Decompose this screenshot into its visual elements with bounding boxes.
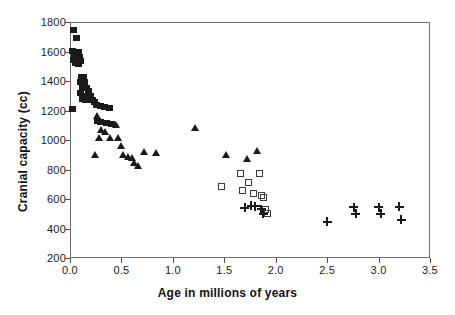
- x-tick-mark: [224, 258, 225, 263]
- data-point-open-square: [245, 179, 252, 186]
- data-point-filled-triangle: [91, 151, 99, 158]
- plot-area: [70, 22, 430, 258]
- x-axis-label: Age in millions of years: [0, 286, 455, 300]
- y-tick-label: 600: [4, 193, 66, 205]
- y-tick-mark: [65, 199, 70, 200]
- data-point-plus: [395, 202, 404, 211]
- data-point-filled-square: [70, 27, 77, 33]
- y-tick-mark: [65, 170, 70, 171]
- x-tick-mark: [276, 258, 277, 263]
- data-point-filled-triangle: [222, 151, 230, 158]
- data-point-plus: [323, 217, 332, 226]
- scatter-chart: 20040060080010001200140016001800 0.00.51…: [0, 0, 455, 315]
- x-tick-label: 1.0: [165, 264, 181, 276]
- y-tick-label: 1600: [4, 46, 66, 58]
- data-point-plus: [376, 209, 385, 218]
- x-tick-label: 3.5: [422, 264, 438, 276]
- x-tick-mark: [173, 258, 174, 263]
- data-point-filled-triangle: [140, 148, 148, 155]
- data-point-filled-triangle: [253, 147, 261, 154]
- x-tick-mark: [430, 258, 431, 263]
- data-point-filled-triangle: [93, 112, 101, 119]
- data-point-open-square: [260, 194, 267, 201]
- data-point-plus: [351, 209, 360, 218]
- data-point-open-square: [237, 170, 244, 177]
- y-tick-mark: [65, 140, 70, 141]
- data-point-plus: [397, 215, 406, 224]
- x-tick-mark: [379, 258, 380, 263]
- y-tick-label: 1000: [4, 134, 66, 146]
- y-axis-label: Cranial capacity (cc): [16, 91, 30, 212]
- data-point-open-square: [239, 187, 246, 194]
- data-point-open-square: [250, 190, 257, 197]
- data-point-filled-triangle: [114, 134, 122, 141]
- data-point-filled-triangle: [243, 155, 251, 162]
- y-tick-mark: [65, 81, 70, 82]
- y-tick-label: 1800: [4, 16, 66, 28]
- data-point-filled-square: [106, 105, 113, 111]
- x-tick-mark: [327, 258, 328, 263]
- x-tick-label: 1.5: [216, 264, 232, 276]
- x-tick-label: 0.5: [113, 264, 129, 276]
- x-tick-label: 2.5: [319, 264, 335, 276]
- data-point-filled-triangle: [191, 124, 199, 131]
- y-tick-mark: [65, 22, 70, 23]
- x-tick-mark: [121, 258, 122, 263]
- data-point-filled-triangle: [134, 162, 142, 169]
- y-tick-mark: [65, 229, 70, 230]
- data-point-filled-triangle: [117, 142, 125, 149]
- y-tick-label: 1200: [4, 105, 66, 117]
- y-tick-label: 1400: [4, 75, 66, 87]
- x-tick-mark: [70, 258, 71, 263]
- data-point-filled-triangle: [95, 134, 103, 141]
- data-point-open-square: [218, 183, 225, 190]
- y-tick-label: 800: [4, 164, 66, 176]
- y-tick-label: 200: [4, 252, 66, 264]
- y-tick-label: 400: [4, 223, 66, 235]
- x-tick-label: 3.0: [371, 264, 387, 276]
- x-tick-label: 0.0: [62, 264, 78, 276]
- data-point-filled-square: [69, 106, 76, 112]
- data-point-filled-square: [73, 35, 80, 41]
- data-point-filled-triangle: [112, 121, 120, 128]
- data-point-filled-triangle: [106, 134, 114, 141]
- data-point-filled-triangle: [152, 149, 160, 156]
- data-point-plus: [259, 209, 268, 218]
- data-point-open-square: [256, 170, 263, 177]
- x-tick-label: 2.0: [268, 264, 284, 276]
- data-point-filled-square: [75, 61, 82, 67]
